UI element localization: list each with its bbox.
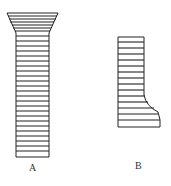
shape-a-stripes xyxy=(8,16,57,151)
shape-a xyxy=(7,13,58,157)
shape-a-outline xyxy=(7,13,58,157)
shape-b-stripes xyxy=(118,42,160,120)
label-a: A xyxy=(29,163,36,173)
shape-b xyxy=(118,37,160,127)
diagram-canvas xyxy=(0,0,171,186)
label-b: B xyxy=(135,161,142,171)
